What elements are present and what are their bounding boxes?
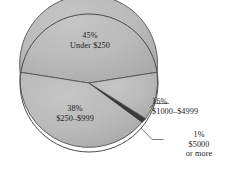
slice-name-1000-4999: $1000–$4999: [152, 107, 240, 117]
slice-name-5000-or-more-cont: or more: [160, 149, 238, 159]
slice-label-1000-4999: 16% $1000–$4999: [152, 97, 240, 116]
slice-name-250-999: $250–$999: [31, 114, 119, 124]
slice-value-5000-or-more: 1%: [160, 130, 238, 140]
slice-label-under-250: 45% Under $250: [46, 31, 134, 50]
slice-value-1000-4999: 16%: [152, 97, 240, 107]
slice-label-250-999: 38% $250–$999: [31, 104, 119, 123]
slice-value-250-999: 38%: [31, 104, 119, 114]
slice-label-5000-or-more: 1% $5000 or more: [160, 130, 238, 159]
slice-name-5000-or-more: $5000: [160, 140, 238, 150]
pie-chart: 45% Under $250 38% $250–$999 16% $1000–$…: [0, 0, 240, 178]
slice-name-under-250: Under $250: [46, 41, 134, 51]
slice-value-under-250: 45%: [46, 31, 134, 41]
